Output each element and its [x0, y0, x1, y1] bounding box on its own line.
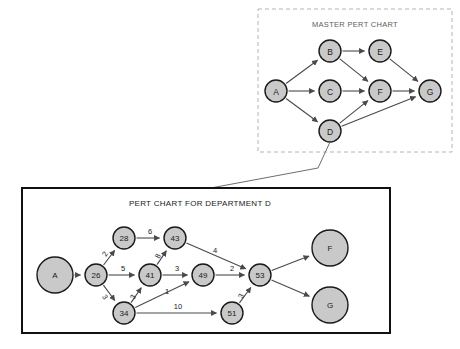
- drilldown-connector: [200, 142, 330, 190]
- node-label-49: 49: [199, 271, 208, 280]
- edge-weight-26-41: 5: [121, 264, 125, 273]
- node-41: 41: [139, 264, 161, 286]
- node-label-C: C: [327, 87, 333, 97]
- node-28: 28: [113, 227, 135, 249]
- node-label-51: 51: [228, 309, 237, 318]
- node-label-53: 53: [256, 271, 265, 280]
- edge-weight-41-49: 3: [175, 264, 179, 273]
- edge-weight-34-49: 1: [165, 287, 169, 296]
- node-label-G: G: [327, 301, 333, 310]
- node-G: G: [419, 80, 441, 102]
- node-F: F: [369, 80, 391, 102]
- node-label-28: 28: [120, 234, 129, 243]
- node-label-43: 43: [171, 234, 180, 243]
- node-E: E: [369, 40, 391, 62]
- edge-A-to-B: [286, 60, 318, 83]
- edge-A-to-D: [286, 98, 318, 121]
- edge-B-to-F: [340, 59, 368, 82]
- node-F: F: [312, 230, 348, 266]
- node-53: 53: [249, 264, 271, 286]
- edge-weight-28-43: 6: [148, 227, 152, 236]
- master-panel-title: MASTER PERT CHART: [312, 20, 398, 29]
- node-label-D: D: [327, 127, 333, 137]
- node-A: A: [37, 257, 73, 293]
- department-pert-chart-panel: PERT CHART FOR DEPARTMENT D 253683311042…: [22, 188, 390, 333]
- diagram-canvas: MASTER PERT CHART ABCDEFG PERT CHART FOR…: [0, 0, 460, 349]
- edge-weight-34-51: 10: [174, 302, 182, 311]
- node-label-G: G: [427, 87, 434, 97]
- node-label-34: 34: [120, 309, 129, 318]
- node-51: 51: [221, 302, 243, 324]
- master-pert-chart-panel: MASTER PERT CHART ABCDEFG: [258, 9, 452, 152]
- node-B: B: [319, 40, 341, 62]
- edge-D-to-F: [340, 101, 368, 124]
- node-A: A: [265, 80, 287, 102]
- node-label-F: F: [328, 244, 333, 253]
- master-edge-group: [286, 51, 418, 126]
- department-panel-title: PERT CHART FOR DEPARTMENT D: [129, 199, 271, 208]
- node-label-41: 41: [146, 271, 155, 280]
- node-label-E: E: [377, 47, 383, 57]
- node-label-26: 26: [92, 271, 101, 280]
- node-49: 49: [192, 264, 214, 286]
- node-label-A: A: [273, 87, 279, 97]
- node-C: C: [319, 80, 341, 102]
- node-label-A: A: [52, 271, 58, 280]
- node-43: 43: [164, 227, 186, 249]
- edge-weight-49-53: 2: [230, 264, 234, 273]
- master-panel-border: [258, 9, 452, 152]
- node-label-F: F: [377, 87, 382, 97]
- edge-weight-43-53: 4: [213, 246, 217, 255]
- pert-chart-figure: MASTER PERT CHART ABCDEFG PERT CHART FOR…: [0, 0, 460, 349]
- node-label-B: B: [327, 47, 333, 57]
- node-G: G: [312, 287, 348, 323]
- node-26: 26: [85, 264, 107, 286]
- edge-E-to-G: [390, 59, 418, 82]
- node-34: 34: [113, 302, 135, 324]
- node-D: D: [319, 120, 341, 142]
